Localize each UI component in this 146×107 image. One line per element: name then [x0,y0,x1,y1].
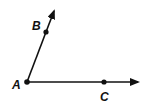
point-a [24,79,30,85]
label-b: B [32,19,41,33]
point-b [43,29,48,34]
label-c: C [100,90,109,104]
angle-diagram: A B C [0,0,146,107]
label-a: A [11,78,21,92]
point-c [101,79,106,84]
